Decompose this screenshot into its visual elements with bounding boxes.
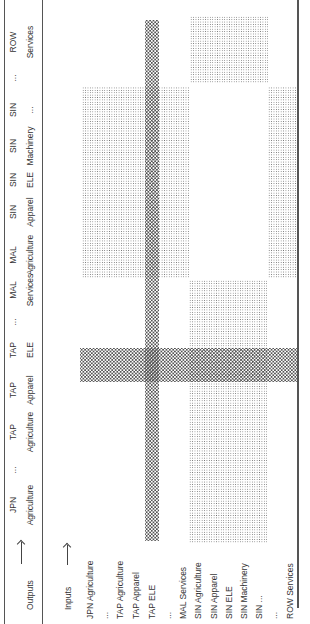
column-sector: Machinery [25,126,35,165]
row-label: ... [163,612,173,619]
column-sector: ELE [25,172,35,188]
shaded-region-dark [145,20,159,541]
column-country: MAL [8,281,18,298]
inputs-arrow-icon [67,545,68,565]
column-country: TAP [8,424,18,440]
column-sector: Apparel [25,197,35,226]
row-label: SIN ... [254,595,264,619]
column-sector: ELE [25,342,35,358]
row-label: MAL Services [178,567,188,619]
shaded-region-dark [80,348,297,382]
column-sector: ... [25,106,35,113]
shaded-region-light [189,280,267,543]
column-country: SIN [8,103,18,117]
row-label: SIN Apparel [209,574,219,619]
shaded-region-light [268,87,297,278]
column-country: TAP [8,342,18,358]
column-country: ... [8,74,18,81]
row-label: ... [269,612,279,619]
column-sector: Agriculture [25,235,35,276]
io-table-diagram: Outputs Inputs JPNAgriculture...TAPAgric… [0,0,310,624]
column-sector: Agriculture [25,485,35,526]
row-label: SIN ELE [224,586,234,619]
column-sector: Apparel [25,375,35,404]
row-label: SIN Agriculture [193,562,203,619]
shaded-region-light [82,87,189,278]
column-country: JPN [8,497,18,513]
row-label: TAP ELE [147,585,157,619]
column-country: MAL [8,246,18,263]
row-label: ... [100,612,110,619]
column-sector: Services [25,26,35,59]
shaded-region-light [190,16,268,83]
row-label: SIN Machinery [239,563,249,619]
column-sector: Agriculture [25,412,35,453]
row-label: ROW Services [285,563,295,619]
row-label: TAP Apparel [131,572,141,619]
column-country: ROW [8,32,18,53]
column-country: SIN [8,173,18,187]
outputs-arrow-icon [21,542,22,564]
top-rule [4,0,5,624]
outputs-label: Outputs [25,580,35,610]
column-sector: Services [25,274,35,307]
row-label: TAP Agriculture [115,561,125,619]
inputs-label: Inputs [63,587,73,610]
column-country: ... [8,466,18,473]
column-country: TAP [8,382,18,398]
row-label: JPN Agriculture [85,560,95,619]
bottom-rule [297,0,299,608]
header-rule [42,0,43,624]
column-country: SIN [8,139,18,153]
column-country: ... [8,318,18,325]
column-country: SIN [8,205,18,219]
